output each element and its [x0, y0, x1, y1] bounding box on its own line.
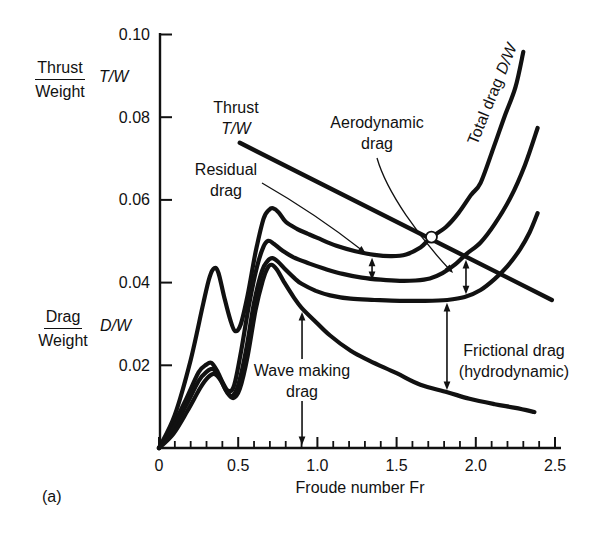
chart-canvas: 0.020.040.060.080.1000.51.01.52.02.5 [0, 0, 607, 541]
drag-weight-numerator: Drag [44, 306, 83, 329]
thrust-curve-label: Thrust T/W [202, 97, 270, 139]
x-axis-title: Froude number Fr [252, 477, 468, 498]
drag-weight-denominator: Weight [33, 329, 93, 351]
y-tick-label: 0.10 [119, 26, 150, 43]
thrust-weight-denominator: Weight [29, 80, 91, 102]
design-point-marker [426, 232, 437, 243]
panel-letter: (a) [42, 486, 62, 507]
residual-drag-leader [262, 183, 363, 251]
x-tick-label: 2.0 [465, 457, 487, 474]
y-tick-label: 0.06 [119, 191, 150, 208]
x-tick-label: 0.5 [227, 457, 249, 474]
y-axis-label-thrust-weight: Thrust Weight [29, 57, 91, 102]
frictional-drag-gap-arrow-head-up [444, 303, 451, 312]
y-tick-label: 0.04 [119, 274, 150, 291]
frictional-drag-gap-arrow-head-down [444, 382, 451, 391]
y-tick-label: 0.02 [119, 357, 150, 374]
aerodynamic-drag-gap-arrow-head-up [463, 260, 470, 269]
x-tick-label: 0 [155, 457, 164, 474]
thrust-weight-numerator: Thrust [35, 57, 84, 80]
frictional-drag-label: Frictional drag (hydrodynamic) [443, 340, 585, 382]
residual-drag-label: Residual drag [186, 159, 266, 201]
y-tick-label: 0.08 [119, 109, 150, 126]
residual-drag-gap-arrow-head-up [369, 258, 376, 267]
y-axis-symbol-tw: T/W [99, 66, 128, 87]
y-axis-symbol-dw: D/W [100, 315, 131, 336]
y-axis-label-drag-weight: Drag Weight [33, 306, 93, 351]
wave-making-drag-label: Wave making drag [246, 361, 358, 402]
x-tick-label: 1.5 [385, 457, 407, 474]
hydrofoil-drag-thrust-figure: 0.020.040.060.080.1000.51.01.52.02.5 Thr… [0, 0, 607, 541]
wave-making-drag-gap-arrow-head-down [299, 437, 306, 446]
aerodynamic-drag-label: Aerodynamic drag [318, 112, 436, 154]
aerodynamic-drag-gap-arrow-head-down [463, 286, 470, 294]
x-tick-label: 2.5 [544, 457, 566, 474]
x-tick-label: 1.0 [306, 457, 328, 474]
